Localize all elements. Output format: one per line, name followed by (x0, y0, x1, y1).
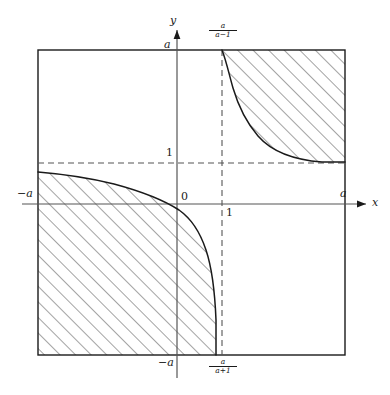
origin-label: 0 (181, 190, 188, 203)
label-a-over-a-minus-1: a a−1 (209, 22, 237, 39)
label-a-over-a-plus-1: a a+1 (209, 358, 237, 375)
x-tick-label-a: a (340, 187, 347, 200)
frac-numerator: a (209, 22, 237, 30)
hyperbola-figure: y x 0 a 1 −a −a a 1 a a−1 a a+1 (0, 0, 390, 395)
x-tick-label-neg-a: −a (17, 187, 33, 200)
y-tick-label-neg-a: −a (158, 356, 174, 369)
figure-canvas (0, 0, 390, 395)
frac-denominator: a−1 (209, 30, 237, 39)
y-tick-label-a: a (164, 38, 171, 51)
y-tick-label-one: 1 (166, 146, 173, 159)
x-tick-label-one: 1 (226, 206, 233, 219)
y-axis-label: y (170, 14, 176, 27)
frac-numerator: a (209, 358, 237, 366)
frac-denominator: a+1 (209, 366, 237, 375)
x-axis-label: x (372, 196, 378, 209)
x-axis-arrow-icon (357, 201, 366, 208)
y-axis-arrow-icon (174, 30, 181, 39)
